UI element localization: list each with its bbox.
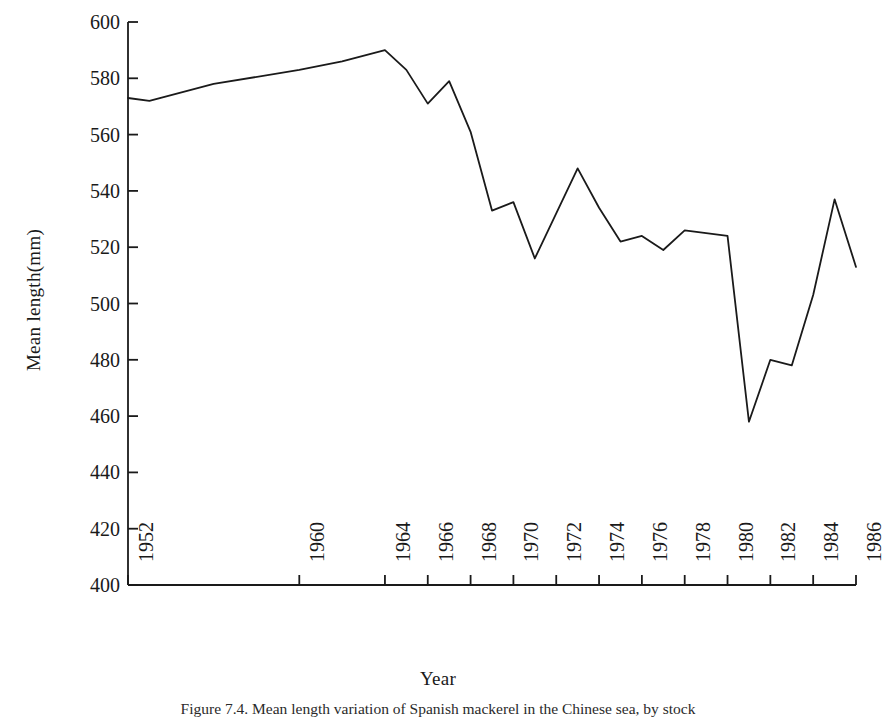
x-axis-tick-label: 1968: [479, 522, 499, 592]
x-axis-title: Year: [0, 668, 876, 690]
x-axis-tick-label: 1986: [864, 522, 884, 592]
x-axis-tick-label: 1980: [736, 522, 756, 592]
x-axis-tick-label: 1976: [650, 522, 670, 592]
x-axis-tick-label: 1966: [436, 522, 456, 592]
x-axis-tick-label: 1960: [307, 522, 327, 592]
x-axis-tick-label: 1972: [564, 522, 584, 592]
x-axis-tick-label: 1982: [778, 522, 798, 592]
x-axis-tick-label: 1978: [693, 522, 713, 592]
x-axis-tick-label: 1974: [607, 522, 627, 592]
x-axis-tick-label: 1970: [521, 522, 541, 592]
figure-caption: Figure 7.4. Mean length variation of Spa…: [0, 699, 876, 718]
x-axis-tick-label: 1984: [821, 522, 841, 592]
x-axis-tick-label: 1964: [393, 522, 413, 592]
x-axis-tick-label: 1952: [136, 522, 156, 592]
